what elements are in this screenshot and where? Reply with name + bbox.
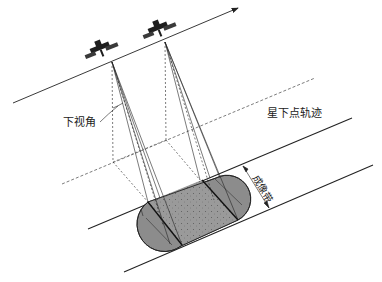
look-angle-leader [100, 106, 118, 122]
projection-line [113, 140, 166, 162]
satellite-1-icon [81, 34, 120, 63]
ground-track-label: 星下点轨迹 [267, 108, 322, 119]
satellite-2-icon [139, 14, 178, 43]
nadir-look-angle-label: 下视角 [63, 117, 96, 128]
orbit-line [13, 8, 238, 103]
look-angle-arc [113, 103, 123, 108]
ground-track-line [62, 78, 315, 184]
imaging-footprint [137, 175, 251, 251]
imaging-geometry-diagram [0, 0, 382, 282]
